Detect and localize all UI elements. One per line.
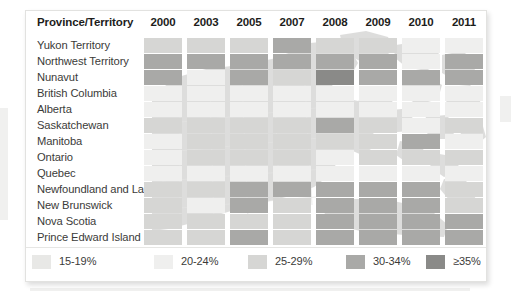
heatmap-table: Province/Territory 200020032005200720082…: [26, 11, 487, 239]
row-label: Nova Scotia: [37, 215, 96, 227]
heat-cell: [273, 54, 311, 69]
heat-cell: [230, 134, 268, 149]
heat-cell: [359, 54, 397, 69]
heat-cell: [144, 70, 182, 85]
heat-cell: [359, 118, 397, 133]
legend-swatch: [32, 255, 51, 269]
heat-cell: [230, 166, 268, 181]
heat-cell: [273, 150, 311, 165]
legend-label: 20-24%: [181, 255, 218, 267]
heat-cell: [445, 102, 483, 117]
heat-cell: [316, 198, 354, 213]
heat-cell: [144, 102, 182, 117]
heat-cell: [230, 230, 268, 245]
heat-cell: [187, 134, 225, 149]
heat-cell: [230, 54, 268, 69]
heat-cell: [187, 150, 225, 165]
heat-cell: [316, 38, 354, 53]
legend-label: 30-34%: [373, 255, 410, 267]
heat-cell: [187, 166, 225, 181]
row-label: Yukon Territory: [37, 39, 110, 51]
heat-cell: [316, 102, 354, 117]
legend-swatch: [154, 255, 173, 269]
row-label: Saskatchewan: [37, 119, 109, 131]
heat-cell: [273, 198, 311, 213]
scan-artifact-bottom: [30, 288, 470, 291]
heat-cell: [359, 182, 397, 197]
heat-cell: [402, 182, 440, 197]
heat-cell: [187, 86, 225, 101]
heat-cell: [187, 54, 225, 69]
heat-cell: [273, 134, 311, 149]
heat-cell: [144, 86, 182, 101]
heat-cell: [230, 150, 268, 165]
heat-cell: [273, 38, 311, 53]
heat-cell: [144, 230, 182, 245]
row-label: Prince Edward Island: [37, 231, 141, 243]
heat-cell: [187, 38, 225, 53]
heat-cell: [316, 134, 354, 149]
heat-cell: [144, 214, 182, 229]
heat-cell: [230, 38, 268, 53]
heat-cell: [445, 166, 483, 181]
heat-cell: [445, 86, 483, 101]
heat-cell: [187, 118, 225, 133]
heat-cell: [273, 70, 311, 85]
legend-label: 25-29%: [275, 255, 312, 267]
row-label: Northwest Territory: [37, 55, 129, 67]
heat-cell: [144, 118, 182, 133]
column-header-2007: 2007: [273, 16, 311, 28]
row-label: New Brunswick: [37, 199, 112, 211]
heat-cell: [144, 38, 182, 53]
row-label: Ontario: [37, 151, 73, 163]
heat-cell: [402, 70, 440, 85]
heat-cell: [402, 134, 440, 149]
heat-cell: [316, 70, 354, 85]
heat-cell: [359, 198, 397, 213]
heat-cell: [359, 214, 397, 229]
heat-cell: [445, 38, 483, 53]
heat-cell: [230, 182, 268, 197]
heat-cell: [187, 214, 225, 229]
heat-cell: [230, 214, 268, 229]
heat-cell: [273, 182, 311, 197]
heat-cell: [144, 182, 182, 197]
legend: 15-19%20-24%25-29%30-34%≥35%: [26, 247, 487, 278]
heat-cell: [402, 54, 440, 69]
heat-cell: [445, 118, 483, 133]
heat-cell: [359, 134, 397, 149]
heat-cell: [273, 102, 311, 117]
heat-cell: [359, 70, 397, 85]
heat-cell: [402, 230, 440, 245]
column-header-2005: 2005: [230, 16, 268, 28]
heat-cell: [187, 230, 225, 245]
heat-cell: [402, 118, 440, 133]
legend-label: 15-19%: [59, 255, 96, 267]
row-label: Manitoba: [37, 135, 82, 147]
heat-cell: [402, 198, 440, 213]
heat-cell: [316, 118, 354, 133]
heat-cell: [445, 214, 483, 229]
heat-cell: [359, 102, 397, 117]
column-header-2009: 2009: [359, 16, 397, 28]
heat-cell: [402, 102, 440, 117]
heat-cell: [316, 214, 354, 229]
heat-cell: [187, 102, 225, 117]
row-label: Alberta: [37, 103, 72, 115]
legend-swatch: [346, 255, 365, 269]
heat-cell: [402, 214, 440, 229]
row-label: British Columbia: [37, 87, 117, 99]
heat-cell: [273, 166, 311, 181]
column-header-2010: 2010: [402, 16, 440, 28]
legend-label: ≥35%: [453, 255, 481, 267]
heat-cell: [187, 198, 225, 213]
legend-swatch: [426, 255, 445, 269]
heat-cell: [445, 54, 483, 69]
scan-artifact-right: [500, 96, 511, 122]
column-header-2000: 2000: [144, 16, 182, 28]
heat-cell: [187, 182, 225, 197]
heat-cell: [445, 182, 483, 197]
column-header-2003: 2003: [187, 16, 225, 28]
heat-cell: [402, 38, 440, 53]
heat-cell: [230, 70, 268, 85]
